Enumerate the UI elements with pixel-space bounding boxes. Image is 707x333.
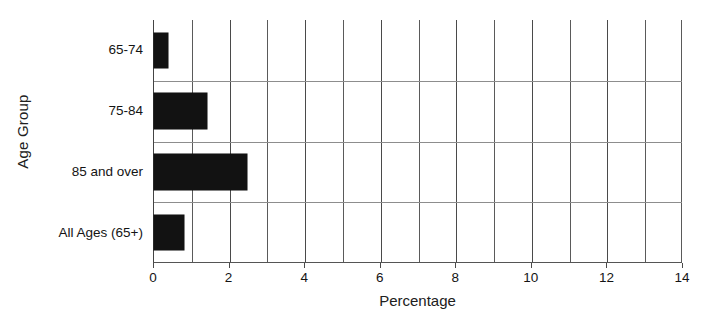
x-tick-mark (606, 263, 607, 268)
x-tick-label: 0 (133, 270, 173, 285)
horizontal-gridline (154, 142, 682, 143)
y-axis-title: Age Group (0, 0, 44, 263)
horizontal-gridline (154, 81, 682, 82)
x-tick-mark (229, 263, 230, 268)
y-tick-label: 65-74 (108, 43, 143, 57)
x-tick-label: 14 (662, 270, 702, 285)
x-tick-mark (380, 263, 381, 268)
y-tick-label: 85 and over (72, 165, 143, 179)
x-tick-mark (455, 263, 456, 268)
x-tick-mark (682, 263, 683, 268)
x-tick-label: 6 (360, 270, 400, 285)
y-tick-label: All Ages (65+) (59, 226, 143, 240)
x-tick-label: 12 (586, 270, 626, 285)
y-axis-tick-labels: 65-7475-8485 and overAll Ages (65+) (44, 20, 148, 263)
x-axis-title: Percentage (153, 292, 682, 309)
plot-area (153, 20, 682, 263)
y-axis-title-label: Age Group (14, 94, 31, 168)
y-tick-label: 75-84 (108, 104, 143, 118)
bar-65-74 (154, 33, 168, 69)
horizontal-gridline (154, 202, 682, 203)
x-tick-mark (304, 263, 305, 268)
x-tick-label: 2 (209, 270, 249, 285)
bar-chart: Age Group 65-7475-8485 and overAll Ages … (0, 0, 707, 333)
bar-75-84 (154, 93, 207, 129)
bar-all-ages-65 (154, 215, 184, 251)
x-tick-label: 4 (284, 270, 324, 285)
x-tick-label: 10 (511, 270, 551, 285)
x-tick-mark (531, 263, 532, 268)
x-tick-label: 8 (435, 270, 475, 285)
bar-85-and-over (154, 154, 247, 190)
x-tick-mark (153, 263, 154, 268)
